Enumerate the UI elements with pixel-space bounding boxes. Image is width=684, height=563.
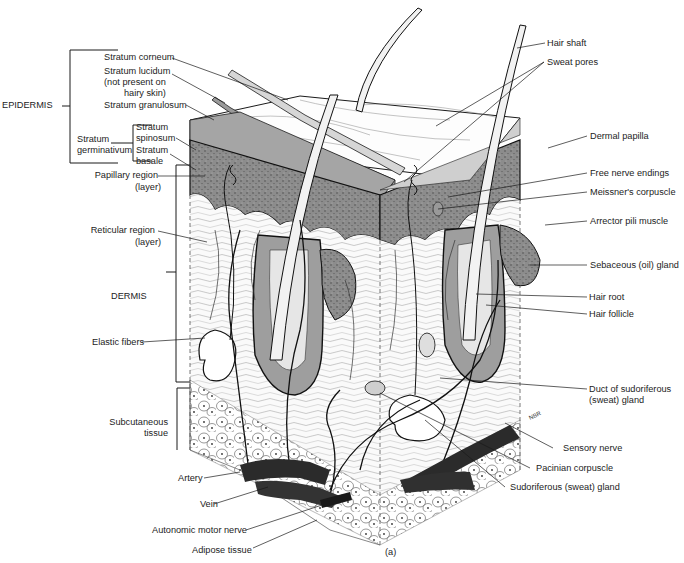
label-sweat-pores: Sweat pores	[547, 57, 598, 68]
label-dermal-papilla: Dermal papilla	[590, 131, 649, 142]
label-reticular-layer: (layer)	[135, 237, 161, 248]
label-stratum-basale: Stratum	[136, 145, 168, 156]
label-stratum-spinosum-2: spinosum	[136, 133, 175, 144]
label-elastic-fibers: Elastic fibers	[92, 337, 144, 348]
label-vein: Vein	[200, 499, 218, 510]
skin-diagram: NBR EPIDERMIS Stratum corneum Stratum lu…	[0, 0, 684, 563]
label-stratum-lucidum-note: (not present on	[104, 77, 166, 88]
panel-label: (a)	[385, 547, 396, 558]
label-duct-sudoriferous-2: (sweat) gland	[589, 395, 644, 406]
label-subcutaneous-tissue: tissue	[144, 428, 168, 439]
skin-illustration: NBR	[0, 0, 684, 563]
artist-initials: NBR	[528, 410, 543, 421]
label-hair-follicle: Hair follicle	[589, 309, 634, 320]
label-papillary-region: Papillary region	[95, 170, 158, 181]
label-reticular-region: Reticular region	[91, 225, 155, 236]
label-hair-shaft: Hair shaft	[547, 38, 586, 49]
label-sudoriferous-gland: Sudoriferous (sweat) gland	[510, 482, 620, 493]
label-arrector-pili-muscle: Arrector pili muscle	[590, 216, 668, 227]
label-papillary-layer: (layer)	[135, 182, 161, 193]
label-stratum-corneum: Stratum corneum	[104, 52, 174, 63]
label-pacinian-corpuscle: Pacinian corpuscle	[536, 463, 613, 474]
label-sensory-nerve: Sensory nerve	[563, 443, 622, 454]
label-autonomic-motor-nerve: Autonomic motor nerve	[152, 525, 247, 536]
label-adipose-tissue: Adipose tissue	[192, 545, 252, 556]
label-sebaceous-gland: Sebaceous (oil) gland	[590, 260, 679, 271]
label-stratum-spinosum: Stratum	[136, 122, 168, 133]
label-stratum-granulosum: Stratum granulosum	[104, 100, 187, 111]
label-duct-sudoriferous: Duct of sudoriferous	[589, 384, 671, 395]
label-free-nerve-endings: Free nerve endings	[590, 168, 669, 179]
label-meissners-corpuscle: Meissner's corpuscle	[590, 187, 676, 198]
label-stratum-lucidum: Stratum lucidum	[104, 66, 170, 77]
label-stratum-germinativum-2: germinativum	[77, 145, 132, 156]
label-artery: Artery	[178, 473, 203, 484]
label-stratum-basale-2: basale	[136, 156, 163, 167]
label-epidermis: EPIDERMIS	[2, 100, 53, 111]
label-hair-root: Hair root	[589, 292, 624, 303]
label-stratum-germinativum: Stratum	[77, 134, 109, 145]
label-subcutaneous: Subcutaneous	[109, 417, 168, 428]
label-stratum-lucidum-note2: hairy skin)	[124, 88, 166, 99]
label-dermis: DERMIS	[111, 291, 147, 302]
